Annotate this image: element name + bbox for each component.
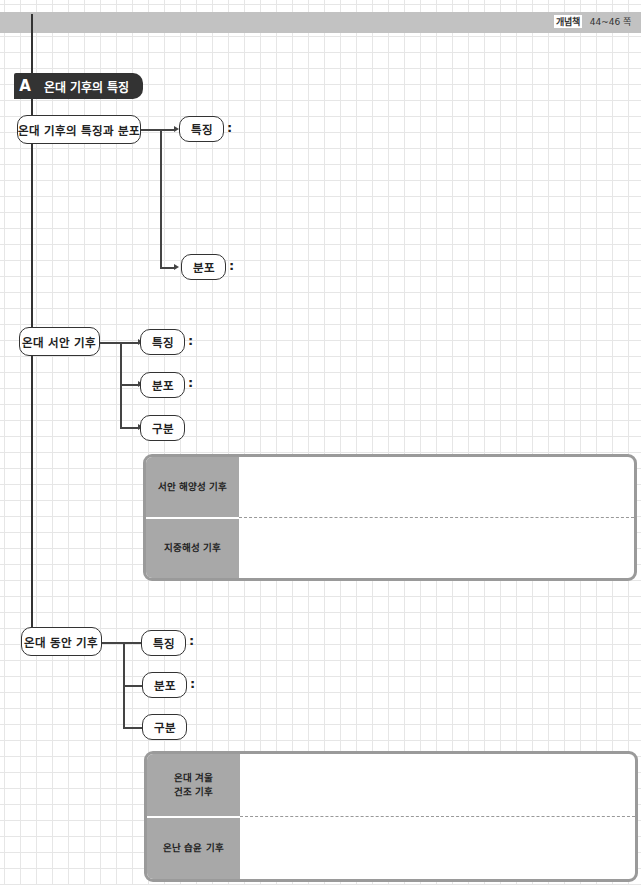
book-label: 개념책 xyxy=(554,15,582,28)
connector-line xyxy=(120,384,138,386)
group-node-east-coast: 온대 동안 기후 xyxy=(21,627,102,656)
connector-line xyxy=(123,727,142,729)
sub-node-features: 특징 xyxy=(179,116,224,142)
sub-node-distribution: 분포 xyxy=(181,254,226,280)
connector-line xyxy=(120,427,138,429)
answer-field[interactable] xyxy=(240,816,635,879)
connector-line xyxy=(102,642,142,644)
colon-mark: : xyxy=(227,120,232,135)
colon-mark: : xyxy=(229,258,234,273)
answer-field[interactable] xyxy=(240,754,635,816)
colon-mark: : xyxy=(188,375,193,390)
sub-node-features: 특징 xyxy=(140,329,185,355)
sub-node-features: 특징 xyxy=(141,630,186,656)
connector-line xyxy=(100,342,138,344)
group-node-west-coast: 온대 서안 기후 xyxy=(19,327,100,356)
group-node-climate-features: 온대 기후의 특징과 분포 xyxy=(17,115,141,144)
west-coast-classification-table: 서안 해양성 기후 지중해성 기후 xyxy=(143,454,637,581)
sub-node-classification: 구분 xyxy=(142,714,187,740)
east-coast-classification-table: 온대 겨울 건조 기후 온난 습윤 기후 xyxy=(144,751,638,882)
colon-mark: : xyxy=(188,333,193,348)
main-spine-line xyxy=(31,14,33,632)
row-label: 서안 해양성 기후 xyxy=(146,457,239,517)
connector-line xyxy=(160,129,162,267)
connector-line xyxy=(123,685,142,687)
page-range: 44~46 쪽 xyxy=(590,15,631,28)
sub-node-distribution: 분포 xyxy=(140,372,185,398)
page-reference: 개념책 44~46 쪽 xyxy=(554,15,631,28)
row-label: 지중해성 기후 xyxy=(146,517,239,579)
row-label: 온대 겨울 건조 기후 xyxy=(147,754,240,816)
section-title: 온대 기후의 특징 xyxy=(36,73,143,99)
answer-field[interactable] xyxy=(239,517,634,578)
connector-line xyxy=(160,267,174,269)
colon-mark: : xyxy=(190,676,195,691)
colon-mark: : xyxy=(189,633,194,648)
answer-field[interactable] xyxy=(239,457,634,517)
row-label: 온난 습윤 기후 xyxy=(147,816,240,880)
section-letter: A xyxy=(14,73,36,99)
sub-node-classification: 구분 xyxy=(140,415,185,441)
connector-line xyxy=(141,129,174,131)
sub-node-distribution: 분포 xyxy=(142,672,187,698)
section-heading: A 온대 기후의 특징 xyxy=(14,73,143,99)
arrow-icon xyxy=(174,264,179,270)
header-band xyxy=(0,12,641,33)
